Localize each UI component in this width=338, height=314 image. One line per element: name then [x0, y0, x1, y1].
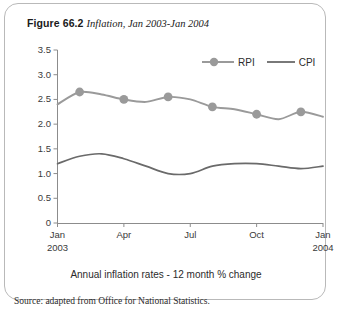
chart-series	[58, 88, 324, 175]
x-tick-label: Oct	[237, 229, 277, 240]
legend-item-cpi: CPI	[266, 56, 316, 68]
legend-item-rpi: RPI	[201, 56, 255, 68]
rpi-line	[58, 92, 324, 120]
y-tick-label: 3.0	[19, 69, 51, 80]
figure-number: Figure 66.2	[27, 17, 84, 29]
rpi-data-point	[164, 93, 173, 102]
rpi-data-point	[75, 88, 84, 97]
rpi-data-point	[208, 102, 217, 111]
y-tick-label: 2.0	[19, 118, 51, 129]
y-tick-label: 0	[19, 217, 51, 228]
legend-marker-cpi-icon	[266, 56, 296, 68]
figure-subtitle: Inflation, Jan 2003-Jan 2004	[87, 18, 209, 29]
legend-marker-rpi-icon	[201, 56, 235, 68]
rpi-data-point	[296, 107, 305, 116]
chart-axes	[54, 50, 324, 227]
rpi-markers	[75, 88, 305, 119]
rpi-data-point	[119, 95, 128, 104]
chart-caption: Annual inflation rates - 12 month % chan…	[5, 269, 327, 280]
y-tick-label: 2.5	[19, 93, 51, 104]
figure-title: Figure 66.2Inflation, Jan 2003-Jan 2004	[27, 13, 209, 31]
y-tick-label: 1.0	[19, 168, 51, 179]
x-tick-label: Jul	[170, 229, 210, 240]
figure-container: Figure 66.2Inflation, Jan 2003-Jan 2004 …	[4, 3, 326, 300]
y-axis-ticks	[54, 50, 58, 223]
y-tick-label: 0.5	[19, 192, 51, 203]
x-tick-year-label: 2003	[38, 242, 78, 253]
source-note: Source: adapted from Office for National…	[14, 296, 210, 306]
legend-label-rpi: RPI	[238, 57, 255, 68]
chart-plot-area: RPI CPI 00.51.01.52.02.53.03.5	[5, 34, 338, 239]
y-tick-label: 3.5	[19, 44, 51, 55]
cpi-line	[58, 154, 324, 175]
x-tick-label: Jan	[303, 229, 338, 240]
x-tick-year-label: 2004	[303, 242, 338, 253]
legend-label-cpi: CPI	[299, 57, 316, 68]
rpi-data-point	[252, 110, 261, 119]
chart-legend: RPI CPI	[201, 56, 315, 68]
x-tick-label: Jan	[38, 229, 78, 240]
y-tick-label: 1.5	[19, 143, 51, 154]
x-tick-label: Apr	[104, 229, 144, 240]
